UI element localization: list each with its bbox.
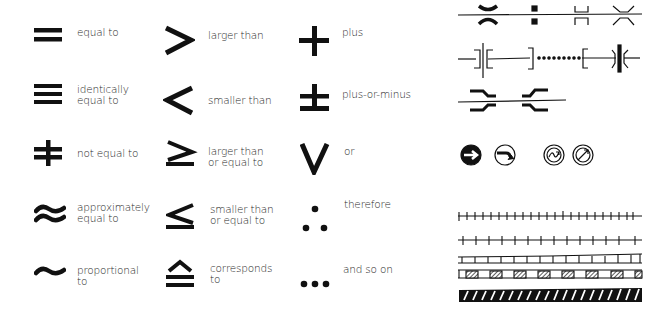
- label-plus: plus: [342, 27, 363, 38]
- label-not-equal-to: not equal to: [77, 148, 138, 159]
- therefore-icon: [302, 205, 332, 233]
- approximately-equal-to-icon: [34, 203, 66, 225]
- cross-tick-track: [458, 236, 642, 245]
- label-approximately-equal-to: approximately equal to: [77, 202, 150, 224]
- label-smaller-than: smaller than: [208, 95, 272, 106]
- smaller-than-icon: [163, 85, 195, 117]
- ladder-track: [458, 254, 642, 263]
- plus-or-minus-icon: [299, 84, 331, 116]
- hatched-block-track: [458, 270, 642, 278]
- and-so-on-icon: [299, 279, 335, 289]
- corresponds-to-icon: [166, 259, 198, 293]
- identically-equal-to-icon: [34, 83, 64, 107]
- label-larger-than-or-equal-to: larger than or equal to: [208, 146, 264, 168]
- or-icon: [300, 143, 332, 175]
- label-larger-than: larger than: [208, 30, 264, 41]
- label-equal-to: equal to: [77, 27, 118, 38]
- striped-bar-track: [459, 288, 642, 302]
- label-plus-or-minus: plus-or-minus: [342, 89, 411, 100]
- proportional-to-icon: [34, 264, 66, 278]
- larger-than-icon: [163, 25, 195, 57]
- larger-than-or-equal-to-icon: [166, 140, 198, 172]
- plus-icon: [299, 26, 331, 58]
- tick-track: [458, 211, 642, 221]
- label-identically-equal-to: identically equal to: [77, 84, 129, 106]
- label-smaller-than-or-equal-to: smaller than or equal to: [210, 204, 274, 226]
- technical-symbols-panel: [450, 0, 672, 319]
- label-or: or: [344, 146, 354, 157]
- equal-to-icon: [34, 27, 64, 43]
- smaller-than-or-equal-to-icon: [166, 203, 198, 235]
- not-equal-to-icon: [34, 139, 64, 167]
- label-therefore: therefore: [344, 199, 391, 210]
- label-corresponds-to: corresponds to: [210, 263, 272, 285]
- label-proportional-to: proportional to: [77, 265, 139, 287]
- label-and-so-on: and so on: [343, 264, 393, 275]
